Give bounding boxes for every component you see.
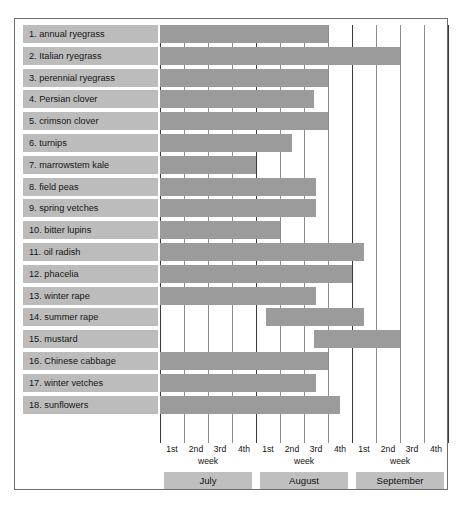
crop-label: 13. winter rape xyxy=(23,287,158,305)
crop-label: 16. Chinese cabbage xyxy=(23,352,158,370)
sowing-period-bar xyxy=(160,90,314,108)
bar-row xyxy=(160,178,449,196)
week-tick-label: 3rd xyxy=(208,443,232,455)
bar-row xyxy=(160,374,449,392)
sowing-period-bar xyxy=(160,47,400,65)
bar-row xyxy=(160,156,449,174)
week-tick-label: 3rd xyxy=(400,443,424,455)
month-label: September xyxy=(356,472,444,489)
bar-row xyxy=(160,308,449,326)
crop-label: 6. turnips xyxy=(23,134,158,152)
crop-label: 10. bitter lupins xyxy=(23,221,158,239)
week-tick xyxy=(328,436,329,443)
week-tick xyxy=(424,436,425,443)
week-tick xyxy=(400,436,401,443)
week-tick xyxy=(304,436,305,443)
sowing-period-bar xyxy=(160,287,316,305)
bar-series xyxy=(160,25,449,436)
sowing-period-bar xyxy=(160,374,316,392)
bar-row xyxy=(160,330,449,348)
bar-row xyxy=(160,199,449,217)
chart-frame: 1. annual ryegrass2. Italian ryegrass3. … xyxy=(14,18,448,490)
crop-label: 1. annual ryegrass xyxy=(23,25,158,43)
week-axis-caption: week xyxy=(256,455,352,467)
crop-label: 2. Italian ryegrass xyxy=(23,47,158,65)
sowing-period-bar xyxy=(160,243,364,261)
week-tick xyxy=(208,436,209,443)
crop-label: 4. Persian clover xyxy=(23,90,158,108)
time-axis: 1st2nd3rd4th1st2nd3rd4th1st2nd3rd4th wee… xyxy=(160,436,449,490)
bar-row xyxy=(160,243,449,261)
crop-label: 11. oil radish xyxy=(23,243,158,261)
month-tick xyxy=(256,436,257,443)
bar-row xyxy=(160,90,449,108)
week-tick xyxy=(232,436,233,443)
crop-label: 15. mustard xyxy=(23,330,158,348)
week-tick-label: 4th xyxy=(424,443,448,455)
bar-row xyxy=(160,396,449,414)
crop-label: 8. field peas xyxy=(23,178,158,196)
bar-row xyxy=(160,69,449,87)
sowing-period-bar xyxy=(160,199,316,217)
bar-row xyxy=(160,287,449,305)
bar-row xyxy=(160,47,449,65)
axis-ticks xyxy=(160,436,449,443)
crop-label: 9. spring vetches xyxy=(23,199,158,217)
week-tick-label: 3rd xyxy=(304,443,328,455)
week-tick xyxy=(184,436,185,443)
crop-label-column: 1. annual ryegrass2. Italian ryegrass3. … xyxy=(23,25,158,417)
crop-label: 3. perennial ryegrass xyxy=(23,69,158,87)
month-label: August xyxy=(260,472,348,489)
week-tick-label: 4th xyxy=(328,443,352,455)
bar-row xyxy=(160,221,449,239)
month-tick xyxy=(352,436,353,443)
crop-label: 18. sunflowers xyxy=(23,396,158,414)
crop-label: 12. phacelia xyxy=(23,265,158,283)
month-tick xyxy=(160,436,161,443)
sowing-period-bar xyxy=(160,69,328,87)
week-tick-label: 2nd xyxy=(184,443,208,455)
week-tick-label: 1st xyxy=(352,443,376,455)
week-tick-label: 1st xyxy=(160,443,184,455)
week-number-labels: 1st2nd3rd4th1st2nd3rd4th1st2nd3rd4th xyxy=(160,443,449,455)
sowing-period-bar xyxy=(160,156,256,174)
sowing-period-bar xyxy=(160,112,328,130)
sowing-period-bar xyxy=(160,265,352,283)
bar-row xyxy=(160,112,449,130)
bar-row xyxy=(160,134,449,152)
crop-label: 14. summer rape xyxy=(23,308,158,326)
week-tick-label: 1st xyxy=(256,443,280,455)
week-axis-caption: week xyxy=(352,455,448,467)
bar-row xyxy=(160,25,449,43)
week-axis-caption: week xyxy=(160,455,256,467)
month-bands: JulyAugustSeptember xyxy=(160,472,449,490)
month-tick xyxy=(448,436,449,443)
sowing-period-bar xyxy=(160,25,328,43)
sowing-period-bar xyxy=(160,178,316,196)
gantt-plot-area xyxy=(160,25,449,436)
bar-row xyxy=(160,352,449,370)
month-label: July xyxy=(164,472,252,489)
crop-label: 5. crimson clover xyxy=(23,112,158,130)
week-tick xyxy=(280,436,281,443)
week-tick-label: 2nd xyxy=(376,443,400,455)
sowing-period-bar xyxy=(160,134,292,152)
week-tick xyxy=(376,436,377,443)
sowing-period-bar xyxy=(160,396,340,414)
sowing-period-bar xyxy=(314,330,400,348)
crop-label: 7. marrowstem kale xyxy=(23,156,158,174)
week-tick-label: 2nd xyxy=(280,443,304,455)
sowing-period-bar xyxy=(266,308,364,326)
week-word-labels: weekweekweek xyxy=(160,455,449,467)
sowing-period-bar xyxy=(160,352,328,370)
crop-label: 17. winter vetches xyxy=(23,374,158,392)
sowing-period-bar xyxy=(160,221,280,239)
bar-row xyxy=(160,265,449,283)
week-tick-label: 4th xyxy=(232,443,256,455)
